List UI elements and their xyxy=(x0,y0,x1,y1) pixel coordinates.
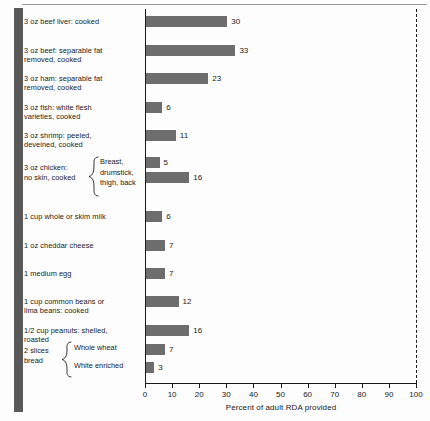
bar-7 xyxy=(146,268,165,279)
x-tick-mark xyxy=(389,383,390,388)
x-tick-mark xyxy=(362,383,363,388)
bar-4 xyxy=(146,130,176,141)
chicken-group-outer-label: 3 oz chicken: no skin, cooked xyxy=(24,163,75,182)
bread-group-brace-icon xyxy=(61,341,72,378)
row-label: 1 medium egg xyxy=(24,269,139,279)
x-tick-mark xyxy=(308,383,309,388)
bar-value-3: 6 xyxy=(166,102,170,113)
bar-chicken-dark-meat xyxy=(146,172,189,183)
x-tick-label: 0 xyxy=(133,390,157,399)
x-tick-label: 40 xyxy=(241,390,265,399)
row-label: 1 cup whole or skim milk xyxy=(24,212,139,222)
x-tick-mark xyxy=(172,383,173,388)
row-label: 1 cup common beans or lima beans: cooked xyxy=(24,297,139,316)
x-tick-mark xyxy=(416,383,417,388)
bread-sub-label-white-enriched: White enriched xyxy=(74,361,123,371)
bread-group-outer-label: 2 slices bread xyxy=(24,346,49,365)
bar-0 xyxy=(146,16,227,27)
bar-value-chicken-dark-meat: 16 xyxy=(193,172,202,183)
x-tick-mark xyxy=(281,383,282,388)
bar-value-0: 30 xyxy=(231,16,240,27)
x-tick-label: 60 xyxy=(296,390,320,399)
bar-9 xyxy=(146,325,189,336)
x-tick-label: 100 xyxy=(404,390,428,399)
x-tick-mark xyxy=(226,383,227,388)
x-axis-title: Percent of adult RDA provided xyxy=(145,403,417,412)
chicken-group-brace-icon xyxy=(88,156,99,197)
x-tick-label: 20 xyxy=(187,390,211,399)
bar-6 xyxy=(146,240,165,251)
x-tick-mark xyxy=(253,383,254,388)
row-label: 1 oz cheddar cheese xyxy=(24,241,139,251)
bar-chart-plot-area: 0102030405060708090100 3 oz beef liver: … xyxy=(0,0,430,421)
bar-value-1: 33 xyxy=(239,45,248,56)
x-tick-label: 30 xyxy=(214,390,238,399)
x-tick-label: 70 xyxy=(323,390,347,399)
figure-canvas: 0102030405060708090100 3 oz beef liver: … xyxy=(0,0,430,421)
bar-3 xyxy=(146,102,162,113)
row-label: 3 oz beef: separable fat removed, cooked xyxy=(24,46,139,65)
bar-5 xyxy=(146,211,162,222)
bar-value-bread-whole-wheat: 7 xyxy=(169,344,173,355)
bar-value-6: 7 xyxy=(169,240,173,251)
x-tick-mark xyxy=(199,383,200,388)
bar-8 xyxy=(146,296,179,307)
row-label: 3 oz shrimp: peeled, deveined, cooked xyxy=(24,131,139,150)
bar-value-4: 11 xyxy=(180,130,188,141)
bar-value-2: 23 xyxy=(212,73,221,84)
row-label: 1/2 cup peanuts: shelled, roasted xyxy=(24,326,139,345)
row-label: 3 oz fish: white flesh varieties, cooked xyxy=(24,103,139,122)
x-tick-label: 90 xyxy=(377,390,401,399)
x-tick-label: 10 xyxy=(160,390,184,399)
rda-100-percent-reference-line xyxy=(416,9,417,383)
x-tick-mark xyxy=(335,383,336,388)
bar-bread-white-enriched xyxy=(146,362,154,373)
x-tick-mark xyxy=(145,383,146,388)
row-label: 3 oz ham: separable fat removed, cooked xyxy=(24,74,139,93)
chicken-sub-label-drumstick: drumstick, thigh, back xyxy=(100,168,136,187)
bar-chicken-breast xyxy=(146,157,160,168)
bar-value-9: 16 xyxy=(193,325,202,336)
bar-value-5: 6 xyxy=(166,211,170,222)
x-tick-label: 80 xyxy=(350,390,374,399)
bar-2 xyxy=(146,73,208,84)
chicken-sub-label-breast: Breast, xyxy=(100,157,123,167)
row-label: 3 oz beef liver: cooked xyxy=(24,17,139,27)
x-tick-label: 50 xyxy=(269,390,293,399)
bar-value-bread-white-enriched: 3 xyxy=(158,362,162,373)
bar-value-7: 7 xyxy=(169,268,173,279)
bar-bread-whole-wheat xyxy=(146,344,165,355)
bar-value-8: 12 xyxy=(183,296,192,307)
bar-value-chicken-breast: 5 xyxy=(164,157,168,168)
bar-1 xyxy=(146,45,235,56)
bread-sub-label-whole-wheat: Whole wheat xyxy=(74,343,117,353)
